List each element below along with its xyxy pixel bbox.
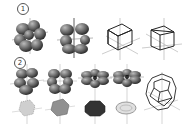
lobes-figure-r2p4: [110, 64, 144, 124]
cube-wireframe-r1p4: [142, 18, 182, 60]
lobes-figure-r2p2: [43, 64, 77, 124]
lobes-figure-r1p2: [57, 18, 93, 58]
lobes-figure-r2p3: [78, 64, 112, 124]
row-1-label: 1: [17, 3, 29, 15]
cube-wireframe-r1p3: [100, 18, 142, 60]
lobes-figure-r1p1: [12, 18, 48, 54]
truncated-octahedron-r2p5: [140, 72, 182, 124]
lobes-figure-r2p1: [10, 64, 44, 124]
